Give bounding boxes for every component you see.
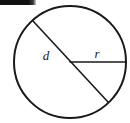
diameter-label: d [43, 48, 50, 63]
circle-diagram-svg: d r [0, 0, 130, 123]
radius-label: r [94, 46, 100, 61]
circle-diagram-figure: d r [0, 0, 130, 123]
